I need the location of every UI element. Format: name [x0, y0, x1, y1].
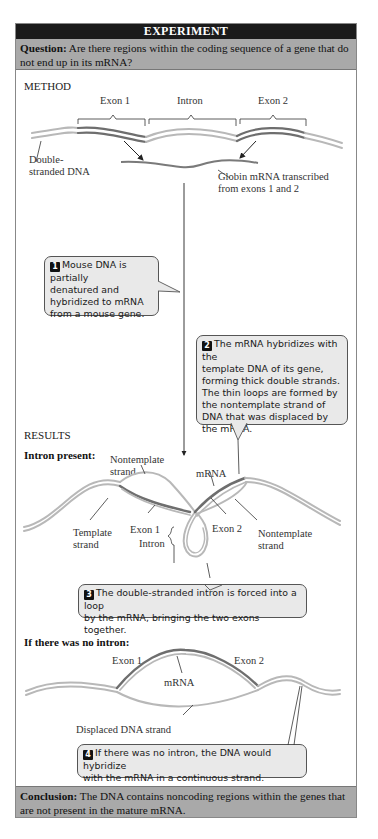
diagram-artwork	[0, 0, 378, 839]
intron-present-pointers	[90, 465, 257, 563]
globin-mrna-strand	[121, 160, 258, 167]
hybrid-intron-present	[24, 472, 340, 556]
exon-intron-braces	[78, 115, 306, 126]
hybrid-no-intron	[26, 650, 340, 707]
double-stranded-dna	[32, 127, 342, 148]
